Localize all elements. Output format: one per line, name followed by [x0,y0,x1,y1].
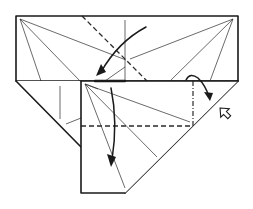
diagram-canvas [0,0,253,209]
top-panel [16,16,238,81]
left-triangle [16,81,81,147]
origami-diagram [0,0,253,209]
push-arrow-icon [216,104,234,122]
front-flap [81,81,238,193]
